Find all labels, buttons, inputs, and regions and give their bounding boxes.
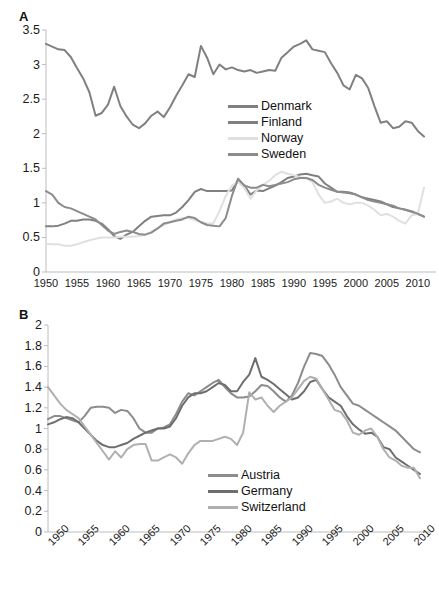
panel-b: B 00.20.40.60.811.21.41.61.8219501955196… bbox=[0, 297, 439, 595]
y-tick-label: 1 bbox=[6, 197, 40, 210]
y-tick-label: 1 bbox=[8, 423, 42, 436]
y-tick-label: 0.4 bbox=[8, 485, 42, 498]
y-tick-label: 2 bbox=[6, 128, 40, 141]
y-tick-label: 0 bbox=[8, 526, 42, 539]
x-tick-label: 1960 bbox=[93, 278, 123, 289]
x-tick-label: 1970 bbox=[155, 278, 185, 289]
y-tick-label: 2.5 bbox=[6, 93, 40, 106]
legend-label: Austria bbox=[241, 469, 280, 482]
legend-label: Finland bbox=[261, 116, 302, 129]
legend-item-switzerland[interactable]: Switzerland bbox=[208, 499, 306, 515]
y-tick-label: 1.5 bbox=[6, 162, 40, 175]
legend-item-finland[interactable]: Finland bbox=[228, 114, 312, 130]
x-tick-label: 1950 bbox=[31, 278, 61, 289]
x-tick-label: 1995 bbox=[310, 278, 340, 289]
x-tick-label: 1985 bbox=[248, 278, 278, 289]
legend-swatch-icon bbox=[228, 121, 258, 124]
legend-swatch-icon bbox=[228, 153, 258, 156]
panel-a: A 00.511.522.533.51950195519601965197019… bbox=[0, 0, 439, 297]
x-tick-label: 2005 bbox=[372, 278, 402, 289]
legend-label: Sweden bbox=[261, 148, 306, 161]
y-tick-label: 0.8 bbox=[8, 443, 42, 456]
y-tick-label: 0.2 bbox=[8, 505, 42, 518]
legend-swatch-icon bbox=[228, 105, 258, 108]
x-tick-label: 2010 bbox=[403, 278, 433, 289]
x-tick-label: 2000 bbox=[341, 278, 371, 289]
legend-item-austria[interactable]: Austria bbox=[208, 467, 306, 483]
y-tick-label: 1.2 bbox=[8, 402, 42, 415]
y-tick-label: 1.6 bbox=[8, 360, 42, 373]
y-tick-label: 1.8 bbox=[8, 340, 42, 353]
legend-label: Norway bbox=[261, 132, 303, 145]
legend-item-denmark[interactable]: Denmark bbox=[228, 98, 312, 114]
legend: DenmarkFinlandNorwaySweden bbox=[228, 98, 312, 162]
legend-swatch-icon bbox=[228, 137, 258, 140]
legend-label: Denmark bbox=[261, 100, 312, 113]
legend-swatch-icon bbox=[208, 506, 238, 509]
y-tick-label: 0.5 bbox=[6, 231, 40, 244]
legend-swatch-icon bbox=[208, 474, 238, 477]
x-tick-label: 1990 bbox=[279, 278, 309, 289]
legend-swatch-icon bbox=[208, 490, 238, 493]
x-tick-label: 1975 bbox=[186, 278, 216, 289]
x-tick-label: 1980 bbox=[217, 278, 247, 289]
y-tick-label: 2 bbox=[8, 319, 42, 332]
legend-label: Germany bbox=[241, 485, 292, 498]
legend-item-germany[interactable]: Germany bbox=[208, 483, 306, 499]
legend-label: Switzerland bbox=[241, 501, 306, 514]
panel-b-plot-area bbox=[0, 297, 439, 595]
x-tick-label: 1955 bbox=[62, 278, 92, 289]
y-tick-label: 0.6 bbox=[8, 464, 42, 477]
legend-item-norway[interactable]: Norway bbox=[228, 130, 312, 146]
y-tick-label: 1.4 bbox=[8, 381, 42, 394]
legend: AustriaGermanySwitzerland bbox=[208, 467, 306, 515]
y-tick-label: 3 bbox=[6, 59, 40, 72]
legend-item-sweden[interactable]: Sweden bbox=[228, 146, 312, 162]
panel-a-plot-area bbox=[0, 0, 439, 297]
y-tick-label: 3.5 bbox=[6, 24, 40, 37]
x-tick-label: 1965 bbox=[124, 278, 154, 289]
